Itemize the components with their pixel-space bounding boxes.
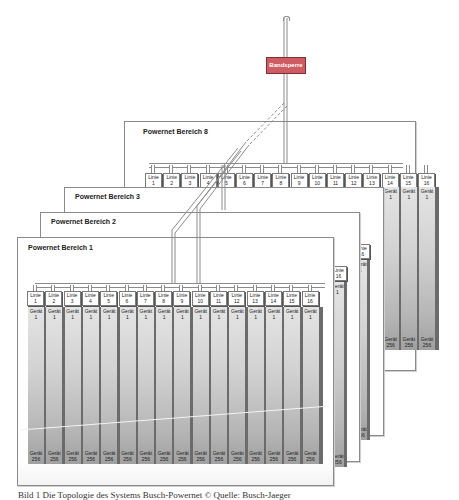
trunk-top-cap bbox=[283, 16, 290, 21]
trunk-wiring bbox=[0, 0, 459, 500]
figure-caption: Bild 1 Die Topologie des Systems Busch-P… bbox=[18, 490, 291, 500]
bandsperre-box: Bandsperre bbox=[266, 57, 306, 74]
